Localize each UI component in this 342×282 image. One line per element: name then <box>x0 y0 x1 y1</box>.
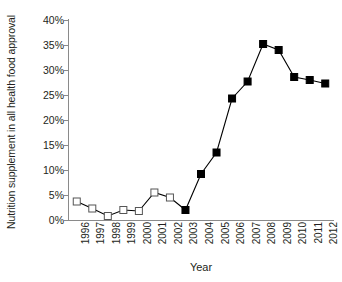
data-point-marker <box>291 74 298 81</box>
data-point-marker <box>322 80 329 87</box>
series-line <box>77 44 325 216</box>
x-axis-tick-label: 2000 <box>143 222 153 244</box>
y-axis-tick-label: 40% <box>43 15 64 26</box>
x-axis-tick-label: 2003 <box>189 222 199 244</box>
y-axis-tick-mark <box>64 45 69 46</box>
x-axis-tick-label: 2011 <box>314 222 324 244</box>
data-point-marker <box>306 77 313 84</box>
y-axis-title: Nutrition supplement in all health food … <box>0 0 22 244</box>
data-point-marker <box>260 41 267 48</box>
x-axis-tick-label: 2005 <box>221 222 231 244</box>
y-axis-tick-mark <box>64 145 69 146</box>
y-axis-tick-label: 5% <box>49 190 64 201</box>
x-axis-tick-label: 2009 <box>283 222 293 244</box>
y-axis-tick-mark <box>64 170 69 171</box>
y-axis-tick-label: 25% <box>43 90 64 101</box>
y-axis-tick-label: 10% <box>43 165 64 176</box>
data-point-marker <box>120 207 127 214</box>
x-axis-tick-label: 2001 <box>158 222 168 244</box>
data-point-marker <box>244 78 251 85</box>
y-axis-tick-label: 35% <box>43 40 64 51</box>
y-axis-tick-label: 0% <box>49 215 64 226</box>
data-point-marker <box>166 194 173 201</box>
y-axis-tick-label: 15% <box>43 140 64 151</box>
y-axis-title-text: Nutrition supplement in all health food … <box>5 15 17 229</box>
y-axis-tick-mark <box>64 195 69 196</box>
x-axis-tick-label: 2010 <box>298 222 308 244</box>
data-point-marker <box>104 213 111 220</box>
x-axis-tick-label: 2004 <box>205 222 215 244</box>
x-axis-tick-label: 2002 <box>174 222 184 244</box>
data-point-marker <box>182 207 189 214</box>
y-axis-tick-mark <box>64 220 69 221</box>
y-axis-tick-labels: 0%5%10%15%20%25%30%35%40% <box>22 0 67 244</box>
data-point-marker <box>275 47 282 54</box>
data-point-marker <box>151 189 158 196</box>
data-point-marker <box>198 171 205 178</box>
y-axis-tick-label: 30% <box>43 65 64 76</box>
y-axis-tick-mark <box>64 120 69 121</box>
y-axis-tick-mark <box>64 20 69 21</box>
y-axis-tick-mark <box>64 70 69 71</box>
data-point-marker <box>89 205 96 212</box>
data-point-marker <box>213 149 220 156</box>
x-axis-tick-label: 2008 <box>267 222 277 244</box>
x-axis-tick-label: 1999 <box>127 222 137 244</box>
x-axis-tick-label: 2006 <box>236 222 246 244</box>
plot-area <box>69 20 333 220</box>
x-axis-tick-label: 2012 <box>329 222 339 244</box>
x-axis-tick-label: 2007 <box>252 222 262 244</box>
data-point-marker <box>73 198 80 205</box>
y-axis-tick-label: 20% <box>43 115 64 126</box>
x-axis-tick-labels: 1996199719981999200020012002200320042005… <box>69 222 333 258</box>
x-axis-tick-label: 1998 <box>112 222 122 244</box>
x-axis-title: Year <box>69 261 333 273</box>
data-point-marker <box>229 95 236 102</box>
x-axis-line <box>68 220 334 221</box>
x-axis-tick-label: 1996 <box>81 222 91 244</box>
x-axis-tick-label: 1997 <box>96 222 106 244</box>
series-line-chart <box>69 20 333 220</box>
chart-figure: Nutrition supplement in all health food … <box>0 0 342 282</box>
data-point-marker <box>135 208 142 215</box>
y-axis-tick-mark <box>64 95 69 96</box>
